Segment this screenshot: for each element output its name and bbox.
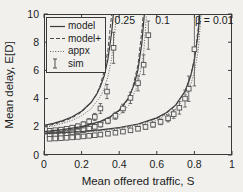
sim-point — [113, 130, 118, 135]
legend-label-model: model — [68, 21, 95, 31]
y-tick-label: 0 — [33, 149, 39, 161]
chart-plot-area: 00.20.40.60.810246810 — [0, 0, 243, 192]
sim-point — [47, 136, 52, 141]
appx-line-icon — [50, 50, 65, 53]
y-tick-label: 10 — [27, 8, 39, 20]
legend-label-model-plus: model+ — [68, 34, 101, 44]
x-tick-label: 0.2 — [74, 158, 89, 170]
sim-point — [146, 33, 151, 38]
sim-point — [53, 136, 58, 141]
legend: model model+ appx sim — [46, 17, 106, 73]
sim-point — [171, 112, 176, 117]
x-tick-label: 0.4 — [112, 158, 127, 170]
y-tick-label: 2 — [33, 120, 39, 132]
x-tick-label: 1 — [229, 158, 235, 170]
figure: 00.20.40.60.810246810 Mean delay, E[D] M… — [0, 0, 243, 192]
legend-label-appx: appx — [68, 46, 90, 56]
sim-point — [192, 47, 197, 52]
sim-point — [105, 89, 110, 94]
annotation-beta-025: 0.25 — [115, 14, 135, 26]
x-tick-label: 0.8 — [187, 158, 202, 170]
sim-point — [76, 135, 81, 140]
sim-point — [143, 125, 148, 130]
sim-errorbar-icon — [50, 58, 65, 69]
x-axis-title: Mean offered traffic, S — [82, 175, 195, 187]
sim-point — [158, 120, 163, 125]
y-tick-label: 8 — [33, 36, 39, 48]
legend-item-model-plus: model+ — [50, 33, 105, 46]
sim-point — [136, 81, 141, 86]
y-tick-label: 4 — [33, 92, 39, 104]
legend-item-model: model — [50, 20, 105, 33]
sim-point — [92, 133, 97, 138]
sim-point — [177, 105, 182, 110]
sim-point — [59, 136, 64, 141]
sim-point — [128, 96, 133, 101]
annotation-beta-01: 0.1 — [155, 14, 170, 26]
sim-point — [98, 132, 103, 137]
sim-point — [128, 128, 133, 133]
sim-point — [151, 122, 156, 127]
legend-label-sim: sim — [68, 59, 84, 69]
sim-point — [87, 119, 92, 124]
annotation-beta-001: β = 0.01 — [195, 14, 233, 26]
sim-point — [183, 96, 188, 101]
sim-point — [121, 129, 126, 134]
sim-point — [98, 122, 103, 127]
x-tick-label: 0 — [41, 158, 47, 170]
legend-item-sim: sim — [50, 58, 105, 71]
y-tick-label: 6 — [33, 64, 39, 76]
sim-point — [106, 131, 111, 136]
sim-point — [186, 86, 191, 91]
sim-point — [121, 106, 126, 111]
sim-point — [92, 115, 97, 120]
sim-point — [111, 46, 116, 51]
sim-point — [166, 116, 171, 121]
sim-point — [87, 134, 92, 139]
sim-point — [92, 125, 97, 130]
sim-point — [106, 119, 111, 124]
y-axis-title: Mean delay, E[D] — [3, 41, 15, 128]
sim-point — [64, 135, 69, 140]
sim-point — [70, 135, 75, 140]
sim-point — [81, 134, 86, 139]
sim-point — [98, 106, 103, 111]
sim-point — [136, 126, 141, 131]
sim-point — [141, 62, 146, 67]
model-plus-line-icon — [50, 37, 65, 40]
model-line-icon — [50, 25, 65, 28]
legend-item-appx: appx — [50, 45, 105, 58]
sim-point — [113, 114, 118, 119]
x-tick-label: 0.6 — [149, 158, 164, 170]
